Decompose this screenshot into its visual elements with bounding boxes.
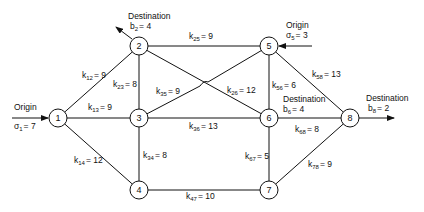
node-2: 2	[130, 37, 148, 55]
node-7: 7	[260, 181, 278, 199]
edge-label-14: k14= 12	[74, 155, 103, 166]
dest-2-annotation: Destination b2= 4	[128, 11, 171, 32]
dest-6-value: b6= 4	[283, 104, 304, 115]
edge-label-26: k26= 12	[227, 85, 256, 96]
edge-label-47: k47= 10	[186, 191, 215, 202]
network-diagram: 1 2 3 4 5 6 7 8 k12= 9 k13= 9 k14= 12 k2…	[0, 0, 424, 212]
node-label: 5	[266, 41, 271, 51]
dest-2-value: b2= 4	[130, 21, 151, 32]
node-1: 1	[49, 109, 67, 127]
origin-5-title: Origin	[286, 20, 309, 30]
node-3: 3	[130, 109, 148, 127]
node-8: 8	[341, 109, 359, 127]
dest-6-annotation: Destination b6= 4	[283, 94, 326, 115]
node-label: 8	[347, 113, 352, 123]
dest-2-title: Destination	[128, 11, 171, 21]
edge-labels: k12= 9 k13= 9 k14= 12 k23= 8 k25= 9 k26=…	[74, 31, 341, 202]
node-4: 4	[130, 181, 148, 199]
node-6: 6	[260, 109, 278, 127]
edge-5-8	[269, 46, 350, 118]
edge-1-4	[58, 118, 139, 190]
edges	[58, 46, 350, 190]
node-5: 5	[260, 37, 278, 55]
edge-label-68: k68= 8	[295, 124, 319, 135]
edge-label-67: k67= 5	[245, 151, 269, 162]
edge-label-12: k12= 9	[82, 70, 106, 81]
edge-label-58: k58= 13	[312, 69, 341, 80]
dest-6-title: Destination	[283, 94, 326, 104]
node-label: 2	[136, 41, 141, 51]
origin-1-title: Origin	[14, 102, 37, 112]
dest-8-value: b8= 2	[368, 103, 389, 114]
origin-1-value: σ1= 7	[14, 121, 36, 132]
origin-5-annotation: Origin σ5= 3	[286, 20, 309, 41]
node-label: 4	[136, 185, 141, 195]
origin-1-annotation: Origin σ1= 7	[14, 102, 37, 132]
edge-label-13: k13= 9	[88, 102, 112, 113]
edge-label-56: k56= 6	[272, 80, 296, 91]
dest-8-annotation: Destination b8= 2	[366, 93, 409, 114]
node-label: 6	[266, 113, 271, 123]
edge-label-25: k25= 9	[189, 31, 213, 42]
node-label: 3	[136, 113, 141, 123]
edge-label-36: k36= 13	[189, 121, 218, 132]
node-label: 1	[55, 113, 60, 123]
edge-label-78: k78= 9	[308, 159, 332, 170]
node-label: 7	[266, 185, 271, 195]
edge-label-23: k23= 8	[113, 79, 137, 90]
dest-8-title: Destination	[366, 93, 409, 103]
edge-label-35: k35= 9	[156, 86, 180, 97]
edge-label-34: k34= 8	[143, 150, 167, 161]
origin-5-value: σ5= 3	[286, 30, 308, 41]
